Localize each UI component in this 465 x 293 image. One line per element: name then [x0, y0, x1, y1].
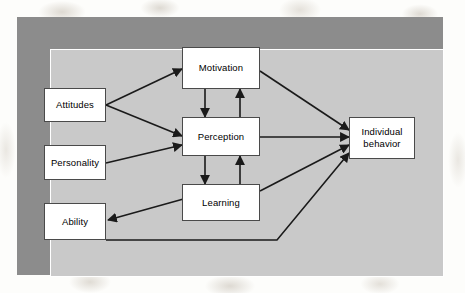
node-motivation[interactable]: Motivation	[182, 47, 260, 89]
node-attitudes-label: Attitudes	[56, 99, 94, 111]
node-motivation-label: Motivation	[199, 62, 243, 74]
node-attitudes[interactable]: Attitudes	[44, 88, 106, 122]
node-perception-label: Perception	[198, 131, 244, 143]
edge-personality-to-perception	[106, 145, 182, 163]
node-learning[interactable]: Learning	[182, 184, 260, 221]
edge-attitudes-to-motivation	[106, 69, 182, 105]
node-learning-label: Learning	[202, 197, 240, 209]
node-ability[interactable]: Ability	[44, 203, 106, 240]
edge-learning-to-ability	[108, 198, 187, 220]
edge-motivation-to-individual-behavior	[260, 71, 349, 130]
node-ability-label: Ability	[62, 216, 88, 228]
node-individual-behavior-label: Individual behavior	[361, 126, 402, 150]
node-personality-label: Personality	[51, 157, 99, 169]
node-individual-behavior[interactable]: Individual behavior	[349, 117, 415, 159]
diagram-canvas: Attitudes Personality Ability Motivation…	[34, 33, 426, 259]
node-personality[interactable]: Personality	[44, 145, 106, 180]
figure-page: Attitudes Personality Ability Motivation…	[0, 0, 465, 293]
node-perception[interactable]: Perception	[182, 117, 260, 156]
edge-attitudes-to-perception	[106, 105, 182, 136]
